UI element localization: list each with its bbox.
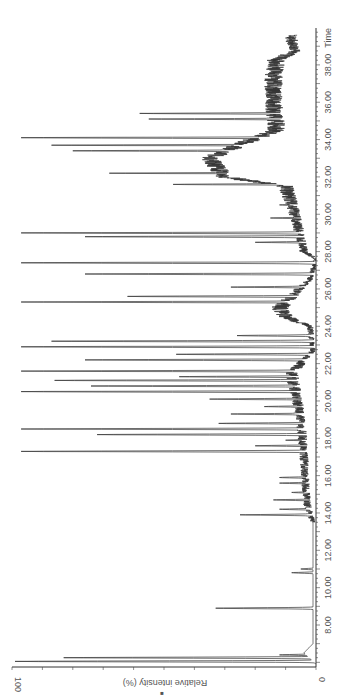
time-ticks: 8.0010.0012.0014.0016.0018.0020.0022.002… bbox=[316, 32, 333, 662]
time-tick-label: 36.00 bbox=[323, 91, 333, 114]
time-axis-label: Time bbox=[323, 28, 333, 48]
chromatogram-trace bbox=[15, 35, 316, 664]
time-tick-label: 28.00 bbox=[323, 240, 333, 263]
time-tick-label: 32.00 bbox=[323, 166, 333, 189]
time-tick-label: 34.00 bbox=[323, 128, 333, 151]
time-tick-label: 24.00 bbox=[323, 315, 333, 338]
time-tick-label: 12.00 bbox=[323, 539, 333, 562]
time-tick-label: 14.00 bbox=[323, 502, 333, 525]
time-tick-label: 10.00 bbox=[323, 576, 333, 599]
time-tick-label: 26.00 bbox=[323, 278, 333, 301]
time-tick-label: 20.00 bbox=[323, 390, 333, 413]
intensity-min-label: 0 bbox=[317, 677, 327, 682]
chromatogram-line bbox=[15, 35, 316, 664]
axes: 8.0010.0012.0014.0016.0018.0020.0022.002… bbox=[12, 28, 333, 670]
time-tick-label: 30.00 bbox=[323, 203, 333, 226]
chromatogram-chart: 8.0010.0012.0014.0016.0018.0020.0022.002… bbox=[0, 0, 340, 696]
chromatogram-plot: 8.0010.0012.0014.0016.0018.0020.0022.002… bbox=[0, 0, 340, 696]
time-tick-label: 38.00 bbox=[323, 54, 333, 77]
intensity-axis-label: Relative intensity (%) bbox=[123, 678, 208, 688]
legend-marker-icon: ■ bbox=[160, 690, 164, 696]
intensity-max-label: 100 bbox=[13, 677, 23, 692]
time-tick-label: 18.00 bbox=[323, 427, 333, 450]
time-tick-label: 16.00 bbox=[323, 464, 333, 487]
time-tick-label: 8.00 bbox=[323, 616, 333, 634]
time-tick-label: 22.00 bbox=[323, 352, 333, 375]
